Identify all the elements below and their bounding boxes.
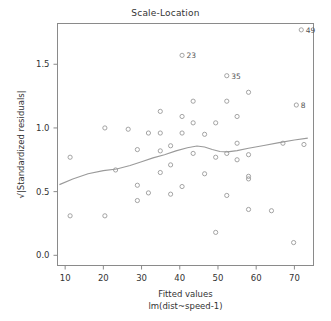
data-point (214, 121, 218, 125)
data-point (294, 103, 298, 107)
data-point (126, 127, 130, 131)
data-point (235, 114, 239, 118)
data-point (146, 131, 150, 135)
data-point (135, 147, 139, 151)
plot-frame (58, 24, 314, 266)
data-point (292, 240, 296, 244)
data-point (302, 142, 306, 146)
data-point (180, 184, 184, 188)
data-point (246, 90, 250, 94)
x-tick-label: 50 (213, 273, 224, 283)
data-point (225, 193, 229, 197)
data-point (113, 168, 117, 172)
data-point (103, 126, 107, 130)
data-point (246, 153, 250, 157)
data-point (169, 192, 173, 196)
point-label: 49 (306, 26, 316, 35)
point-label: 35 (231, 72, 241, 81)
x-tick-label: 70 (289, 273, 300, 283)
data-point (191, 99, 195, 103)
data-point (68, 214, 72, 218)
y-axis-title: √|Standardized residuals| (16, 90, 26, 198)
data-point (225, 74, 229, 78)
x-tick-label: 60 (251, 273, 262, 283)
data-point (203, 132, 207, 136)
data-point (235, 158, 239, 162)
data-point (225, 99, 229, 103)
loess-smoother-line (59, 138, 307, 184)
y-tick-label: 1.5 (36, 59, 50, 69)
x-tick-label: 10 (60, 273, 71, 283)
x-axis-title: Fitted values (158, 289, 213, 299)
data-point (299, 28, 303, 32)
data-point (246, 207, 250, 211)
data-point (135, 198, 139, 202)
data-point (191, 151, 195, 155)
data-point (203, 172, 207, 176)
x-axis-subtitle: lm(dist~speed-1) (148, 301, 222, 311)
data-point (146, 191, 150, 195)
data-point (158, 149, 162, 153)
point-label: 8 (301, 101, 306, 110)
data-point (158, 170, 162, 174)
data-point (214, 230, 218, 234)
y-tick-label: 0.5 (36, 187, 50, 197)
data-point (180, 114, 184, 118)
data-point (169, 144, 173, 148)
data-point (269, 209, 273, 213)
point-label: 23 (187, 51, 197, 60)
data-point (68, 155, 72, 159)
data-point (180, 53, 184, 57)
data-point (169, 163, 173, 167)
x-tick-label: 20 (98, 273, 109, 283)
data-point (158, 109, 162, 113)
data-point (103, 214, 107, 218)
y-tick-label: 0.0 (36, 250, 50, 260)
scale-location-plot: Scale-Location 102030405060700.00.51.01.… (0, 0, 331, 321)
plot-canvas: 102030405060700.00.51.01.5Fitted valuesl… (0, 0, 331, 321)
data-point (191, 121, 195, 125)
x-tick-label: 30 (136, 273, 147, 283)
data-point (158, 131, 162, 135)
data-point (135, 183, 139, 187)
y-tick-label: 1.0 (36, 123, 50, 133)
data-point (235, 141, 239, 145)
x-tick-label: 40 (174, 273, 185, 283)
data-point (180, 131, 184, 135)
data-point (214, 155, 218, 159)
